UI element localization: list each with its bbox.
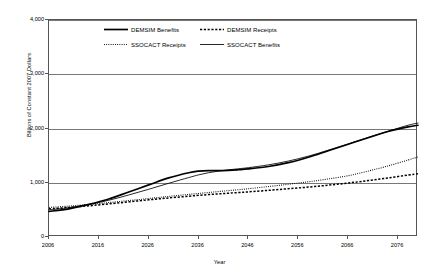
y-tick-label: 0 <box>2 233 44 239</box>
legend-label: DEMSIM Receipts <box>227 27 277 33</box>
x-tick-label: 2026 <box>141 242 153 248</box>
y-axis-label: Billions of Constant 2007 Dollars <box>26 35 32 155</box>
legend-item-ssocact-receipts[interactable]: SSOCACT Receipts <box>104 41 200 48</box>
chart-legend: DEMSIM BenefitsDEMSIM ReceiptsSSOCACT Re… <box>104 26 304 48</box>
x-tick-label: 2006 <box>42 242 54 248</box>
y-tick-label: 2,000 <box>2 125 44 131</box>
legend-item-demsim-receipts[interactable]: DEMSIM Receipts <box>200 26 304 33</box>
series-line <box>49 123 418 210</box>
y-tick-label: 4,000 <box>2 16 44 22</box>
legend-swatch-icon <box>104 26 128 33</box>
x-tick-label: 2036 <box>191 242 203 248</box>
legend-item-demsim-benefits[interactable]: DEMSIM Benefits <box>104 26 200 33</box>
legend-swatch-icon <box>200 26 224 33</box>
chart-container: Billions of Constant 2007 Dollars 01,000… <box>0 0 439 277</box>
series-layer <box>49 20 418 237</box>
x-tick-label: 2066 <box>341 242 353 248</box>
legend-label: SSOCACT Receipts <box>131 42 186 48</box>
legend-swatch-icon <box>200 41 224 48</box>
y-tick-label: 3,000 <box>2 70 44 76</box>
x-axis-label: Year <box>0 259 439 265</box>
x-tick-label: 2076 <box>391 242 403 248</box>
x-tick-label: 2056 <box>291 242 303 248</box>
series-line <box>49 125 418 211</box>
x-tick-label: 2016 <box>92 242 104 248</box>
legend-label: SSOCACT Benefits <box>227 42 280 48</box>
plot-area <box>48 19 417 236</box>
x-tick-label: 2046 <box>241 242 253 248</box>
legend-label: DEMSIM Benefits <box>131 27 179 33</box>
y-tick-label: 1,000 <box>2 179 44 185</box>
legend-swatch-icon <box>104 41 128 48</box>
legend-item-ssocact-benefits[interactable]: SSOCACT Benefits <box>200 41 304 48</box>
